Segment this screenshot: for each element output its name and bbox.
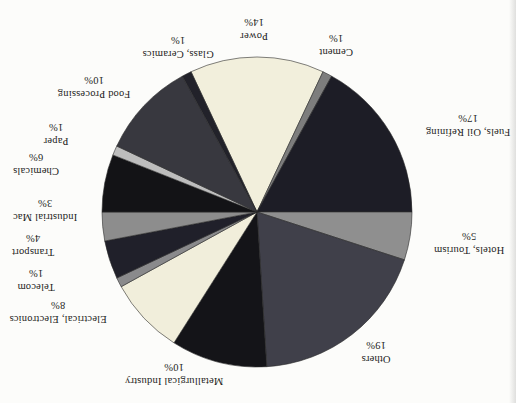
pie-chart [0,0,516,403]
scan-edge-shadow [509,0,516,403]
scanned-pie-chart-page: Power14%Cement1%Fuels, Oil Refining17%Ho… [0,0,516,403]
